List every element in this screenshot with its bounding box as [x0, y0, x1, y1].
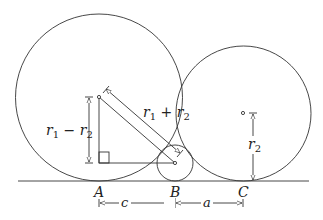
label-c: c — [121, 195, 129, 210]
right-angle-mark — [99, 152, 109, 163]
center-dot-small — [173, 161, 176, 164]
diagram: r1 − r2 r1 + r2 r2 A B C c a — [0, 0, 323, 220]
label-r1-minus-r2: r1 − r2 — [46, 122, 93, 140]
label-point-B: B — [169, 184, 180, 200]
center-dot-right — [241, 111, 244, 114]
diagram-canvas: r1 − r2 r1 + r2 r2 A B C c a — [0, 0, 323, 220]
label-point-A: A — [92, 184, 104, 200]
center-dot-big — [97, 95, 100, 98]
label-point-C: C — [238, 184, 249, 200]
label-r1-plus-r2: r1 + r2 — [143, 104, 190, 122]
dim-tick — [103, 86, 109, 93]
dim-r1-plus-r2 — [106, 89, 180, 153]
label-a: a — [203, 195, 211, 210]
